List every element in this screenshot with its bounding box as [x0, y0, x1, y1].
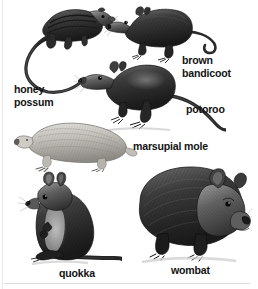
- figure-marsupial-mole: [14, 118, 138, 172]
- page-bottom-guide-line: [4, 283, 250, 284]
- label-honey-possum: honeypossum: [14, 83, 53, 108]
- label-brown-bandicoot-line2: bandicoot: [182, 67, 231, 79]
- quokka-drawing: [18, 172, 122, 264]
- marsupials-illustration-plate: honeypossum brownbandicoot potoroo marsu…: [0, 0, 258, 289]
- page-edge-guide-line: [2, 0, 3, 289]
- wombat-drawing: [139, 167, 252, 262]
- marsupial-mole-drawing: [14, 123, 137, 172]
- label-honey-possum-line1: honey: [14, 83, 44, 95]
- figure-quokka: [14, 168, 122, 272]
- label-quokka: quokka: [59, 267, 95, 280]
- label-honey-possum-line2: possum: [14, 96, 53, 108]
- figure-wombat: [124, 156, 252, 266]
- label-brown-bandicoot: brownbandicoot: [182, 54, 231, 79]
- label-wombat: wombat: [171, 264, 210, 277]
- label-potoroo: potoroo: [186, 103, 225, 116]
- label-marsupial-mole: marsupial mole: [133, 140, 208, 153]
- label-brown-bandicoot-line1: brown: [182, 54, 213, 66]
